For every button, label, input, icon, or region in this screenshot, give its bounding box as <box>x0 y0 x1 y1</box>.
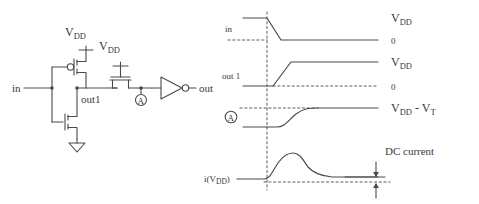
circuit-out1-label: out1 <box>81 93 101 105</box>
figure-root: in VDD VDD out1 A out in out 1 A i(VDD) … <box>0 0 479 204</box>
circuit-and-waveform-diagram: in VDD VDD out1 A out in out 1 A i(VDD) … <box>0 0 479 204</box>
circuit-node-a-label: A <box>138 96 145 106</box>
circuit-out-label: out <box>199 82 213 94</box>
waveform-label-in: in <box>225 24 233 34</box>
circuit-input-label: in <box>12 82 21 94</box>
waveform-a-high-label: VDD - VT <box>391 101 436 117</box>
waveform-label-a: A <box>228 113 235 123</box>
dc-current-annotation: DC current <box>385 145 434 157</box>
waveform-in-low-label: 0 <box>391 36 396 46</box>
waveform-label-out1: out 1 <box>222 71 240 81</box>
waveform-out1-low-label: 0 <box>391 82 396 92</box>
